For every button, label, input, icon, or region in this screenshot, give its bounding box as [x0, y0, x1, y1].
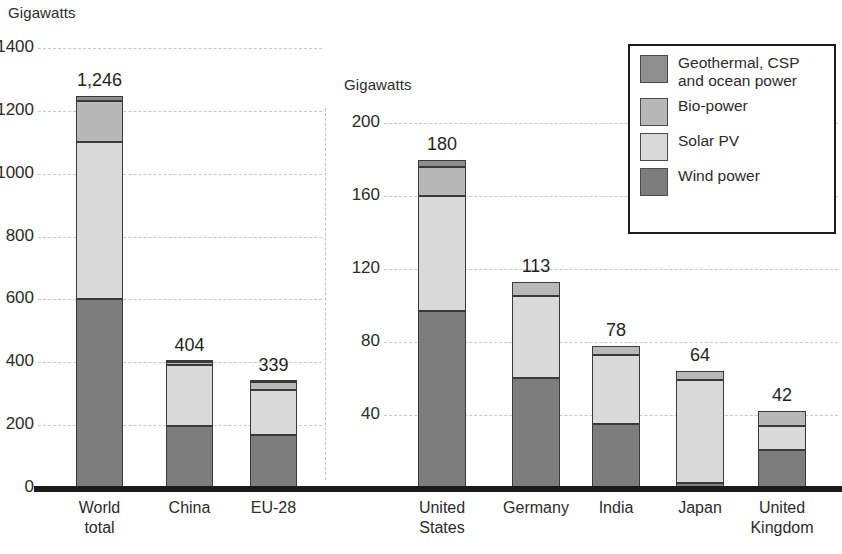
legend-item: Wind power: [640, 167, 828, 196]
stacked-bar: [250, 381, 297, 488]
stacked-bar: [76, 96, 123, 488]
solar-pv-segment: [676, 380, 724, 482]
geothermal-segment: [166, 360, 213, 362]
bar-value-label: 42: [736, 385, 828, 406]
legend-swatch-icon: [640, 98, 668, 126]
bio-power-segment: [418, 167, 466, 196]
category-label-line: total: [50, 518, 149, 538]
legend-label: Geothermal, CSP and ocean power: [678, 54, 799, 91]
bar-value-label: 113: [490, 256, 582, 277]
geothermal-segment: [418, 160, 466, 167]
panel-divider: [325, 108, 326, 480]
legend-swatch-icon: [640, 55, 668, 83]
wind-segment: [592, 424, 640, 488]
bio-power-segment: [592, 346, 640, 355]
bio-power-segment: [76, 101, 123, 142]
y-axis-tick-label: 200: [320, 112, 380, 132]
category-label-line: States: [392, 518, 492, 538]
gridline: [38, 48, 322, 49]
category-label-line: Kingdom: [732, 518, 832, 538]
y-axis-tick-label: 80: [320, 331, 380, 351]
y-axis-tick-label: 1000: [0, 163, 34, 183]
wind-segment: [76, 299, 123, 488]
bar-value-label: 64: [654, 345, 746, 366]
category-label-line: World: [50, 498, 149, 518]
y-axis-tick-label: 120: [320, 258, 380, 278]
wind-segment: [250, 435, 297, 488]
solar-pv-segment: [592, 355, 640, 424]
wind-segment: [418, 311, 466, 488]
solar-pv-segment: [166, 365, 213, 425]
wind-segment: [758, 450, 806, 488]
legend-item: Solar PV: [640, 132, 828, 161]
left-axis-title: Gigawatts: [8, 4, 76, 21]
solar-pv-segment: [76, 142, 123, 299]
left-axis-baseline: [34, 486, 334, 492]
stacked-bar: [166, 361, 213, 488]
legend-swatch-icon: [640, 133, 668, 161]
category-label: EU-28: [224, 498, 323, 518]
geothermal-segment: [76, 96, 123, 101]
bio-power-segment: [250, 382, 297, 390]
bar-value-label: 404: [144, 335, 235, 356]
y-axis-tick-label: 40: [320, 404, 380, 424]
right-axis-title: Gigawatts: [344, 76, 412, 93]
legend-label: Bio-power: [678, 97, 748, 115]
legend-swatch-icon: [640, 168, 668, 196]
stacked-bar-chart-figure: Gigawatts Gigawatts 02004006008001000120…: [0, 0, 842, 554]
bar-value-label: 78: [570, 320, 662, 341]
category-label: UnitedKingdom: [732, 498, 832, 537]
bio-power-segment: [512, 282, 560, 297]
legend-label: Solar PV: [678, 132, 739, 150]
y-axis-tick-label: 400: [0, 351, 34, 371]
bar-value-label: 180: [396, 134, 488, 155]
geothermal-segment: [250, 380, 297, 382]
bar-value-label: 339: [228, 355, 319, 376]
solar-pv-segment: [512, 296, 560, 378]
solar-pv-segment: [418, 196, 466, 311]
category-label: UnitedStates: [392, 498, 492, 537]
category-label-line: United: [392, 498, 492, 518]
chart-legend: Geothermal, CSP and ocean powerBio-power…: [628, 44, 836, 234]
stacked-bar: [418, 160, 466, 489]
stacked-bar: [758, 411, 806, 488]
bar-value-label: 1,246: [54, 70, 145, 91]
wind-segment: [512, 378, 560, 488]
y-axis-tick-label: 1200: [0, 100, 34, 120]
legend-item: Geothermal, CSP and ocean power: [640, 54, 828, 91]
stacked-bar: [512, 282, 560, 488]
y-axis-tick-label: 200: [0, 414, 34, 434]
wind-segment: [166, 426, 213, 488]
stacked-bar: [592, 346, 640, 488]
y-axis-tick-label: 600: [0, 288, 34, 308]
solar-pv-segment: [758, 426, 806, 450]
category-label-line: United: [732, 498, 832, 518]
category-label: Worldtotal: [50, 498, 149, 537]
bio-power-segment: [758, 411, 806, 426]
legend-label: Wind power: [678, 167, 760, 185]
y-axis-tick-label: 1400: [0, 37, 34, 57]
y-axis-tick-label: 0: [0, 477, 34, 497]
legend-item: Bio-power: [640, 97, 828, 126]
stacked-bar: [676, 371, 724, 488]
bio-power-segment: [676, 371, 724, 380]
solar-pv-segment: [250, 390, 297, 434]
category-label-line: EU-28: [224, 498, 323, 518]
right-axis-baseline: [334, 486, 842, 492]
y-axis-tick-label: 160: [320, 185, 380, 205]
y-axis-tick-label: 800: [0, 226, 34, 246]
bio-power-segment: [166, 362, 213, 366]
